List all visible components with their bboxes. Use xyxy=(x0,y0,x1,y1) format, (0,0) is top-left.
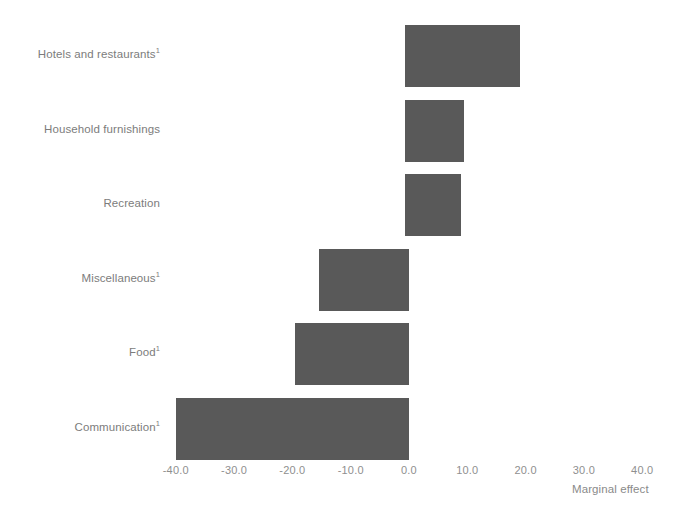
marginal-effect-bar-chart: Hotels and restaurants1Household furnish… xyxy=(0,0,698,528)
bar-recreation xyxy=(405,174,461,236)
x-tick-10: 10.0 xyxy=(456,464,478,476)
x-tick-neg40: -40.0 xyxy=(163,464,189,476)
bar-food xyxy=(295,323,409,385)
x-tick-20: 20.0 xyxy=(514,464,536,476)
x-axis-title: Marginal effect xyxy=(572,483,649,495)
bar-communication xyxy=(176,398,409,460)
x-tick-neg10: -10.0 xyxy=(338,464,364,476)
bar-miscellaneous xyxy=(319,249,409,311)
x-tick-40: 40.0 xyxy=(631,464,653,476)
plot-area xyxy=(0,0,698,460)
x-tick-neg20: -20.0 xyxy=(279,464,305,476)
x-tick-30: 30.0 xyxy=(573,464,595,476)
x-tick-neg30: -30.0 xyxy=(221,464,247,476)
bar-hotels-and-restaurants xyxy=(405,25,520,87)
bar-household-furnishings xyxy=(405,100,464,162)
x-tick-0: 0.0 xyxy=(401,464,417,476)
